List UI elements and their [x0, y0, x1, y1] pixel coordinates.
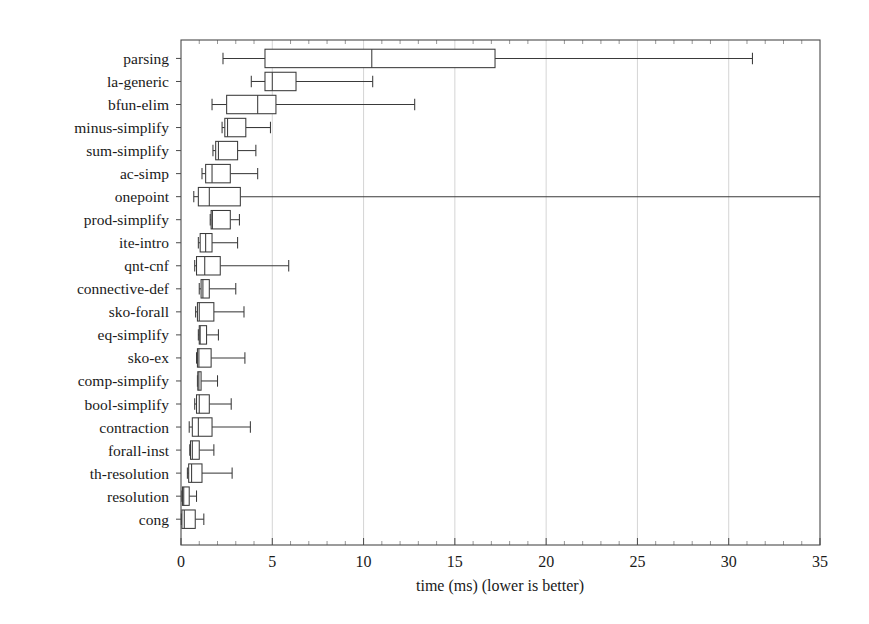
- box-iqr: [197, 257, 221, 275]
- x-tick-label: 15: [447, 553, 463, 570]
- category-label: ac-simp: [120, 165, 169, 182]
- category-label: contraction: [99, 419, 169, 436]
- category-label: eq-simplify: [98, 326, 170, 343]
- category-tickmarks: [176, 58, 181, 519]
- box-iqr: [189, 464, 202, 482]
- box-iqr: [192, 418, 212, 436]
- box-iqr: [265, 72, 296, 90]
- category-label: sko-forall: [109, 303, 169, 320]
- category-label: th-resolution: [90, 465, 169, 482]
- category-label: sum-simplify: [86, 142, 169, 159]
- category-label: prod-simplify: [84, 211, 169, 228]
- category-label: sko-ex: [128, 349, 170, 366]
- category-label: comp-simplify: [78, 372, 170, 389]
- box-iqr: [198, 372, 201, 390]
- category-label: ite-intro: [119, 234, 169, 251]
- category-label: la-generic: [107, 73, 169, 90]
- x-tick-label: 5: [268, 553, 276, 570]
- box-iqr: [197, 395, 210, 413]
- category-label: minus-simplify: [74, 119, 169, 136]
- box-iqr: [227, 95, 276, 113]
- x-tick-label: 30: [721, 553, 737, 570]
- x-tick-label: 10: [356, 553, 372, 570]
- x-tick-label: 35: [812, 553, 828, 570]
- category-label: resolution: [107, 488, 169, 505]
- category-label: parsing: [123, 50, 169, 67]
- box-iqr: [216, 141, 238, 159]
- box-iqr: [211, 210, 230, 228]
- box-iqr: [197, 349, 211, 367]
- box-iqr: [206, 164, 231, 182]
- boxplot-figure: parsingla-genericbfun-elimminus-simplify…: [0, 0, 869, 624]
- x-axis-title: time (ms) (lower is better): [416, 577, 584, 595]
- category-label: onepoint: [115, 188, 170, 205]
- box-iqr: [197, 303, 213, 321]
- category-label: cong: [139, 511, 169, 528]
- box-iqr: [198, 187, 240, 205]
- category-label: forall-inst: [108, 442, 170, 459]
- category-label: qnt-cnf: [124, 257, 170, 274]
- x-tick-label: 25: [629, 553, 645, 570]
- box-iqr: [265, 49, 495, 67]
- category-label: bool-simplify: [85, 396, 170, 413]
- box-iqr: [201, 280, 209, 298]
- boxplot-canvas: parsingla-genericbfun-elimminus-simplify…: [0, 0, 869, 624]
- x-tick-label: 20: [538, 553, 554, 570]
- x-tick-label: 0: [177, 553, 185, 570]
- category-label: connective-def: [77, 280, 170, 297]
- category-label: bfun-elim: [108, 96, 169, 113]
